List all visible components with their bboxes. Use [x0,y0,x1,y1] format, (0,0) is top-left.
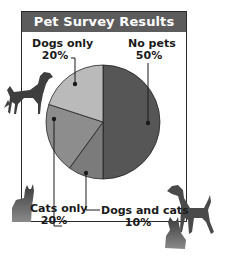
label-dogs-and-cats-pct: 10% [101,217,175,229]
label-dogs-only: Dogs only 20% [32,38,78,62]
label-dogs-and-cats: Dogs and cats 10% [101,205,175,229]
label-no-pets-pct: 50% [128,50,170,62]
label-no-pets: No pets 50% [128,38,170,62]
label-cats-only-pct: 20% [30,215,78,227]
label-dogs-only-pct: 20% [32,50,78,62]
dog-silhouette-left-icon [4,72,53,114]
slice-no-pets [103,65,160,179]
label-cats-only: Cats only 20% [30,203,78,227]
